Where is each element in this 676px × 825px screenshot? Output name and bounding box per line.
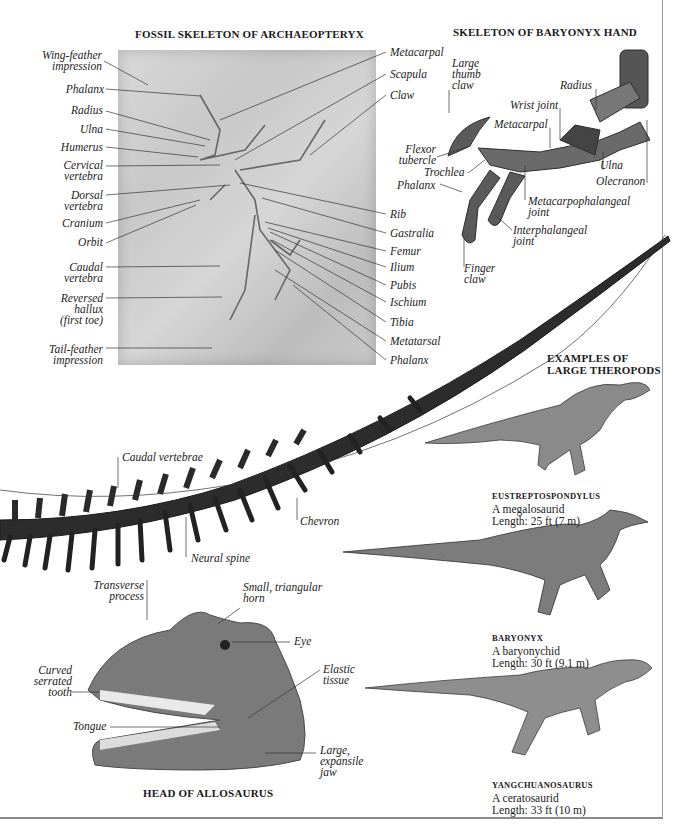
label-claw: Claw xyxy=(390,90,414,101)
label-ilium: Ilium xyxy=(390,262,414,273)
label-cranium: Cranium xyxy=(62,218,103,229)
label-ulna-hand: Ulna xyxy=(600,160,623,171)
label-phalanx-foot: Phalanx xyxy=(390,355,428,366)
label-curved-serrated-tooth: Curvedserratedtooth xyxy=(34,665,72,698)
label-cervical-vertebra: Cervicalvertebra xyxy=(63,160,103,182)
label-metatarsal: Metatarsal xyxy=(390,336,440,347)
label-ulna: Ulna xyxy=(80,124,103,135)
label-radius-hand: Radius xyxy=(560,80,592,91)
yangchuanosaurus-illustration xyxy=(365,660,652,755)
label-interphalangeal-joint: Interphalangealjoint xyxy=(513,225,587,247)
label-phalanx-hand: Phalanx xyxy=(397,180,435,191)
label-chevron: Chevron xyxy=(300,516,339,527)
label-finger-claw: Fingerclaw xyxy=(464,263,495,285)
theropod-name: YANGCHUANOSAURUS xyxy=(492,779,593,792)
theropod-name: EUSTREPTOSPONDYLUS xyxy=(492,490,600,503)
label-olecranon: Olecranon xyxy=(596,176,645,187)
label-large-thumb-claw: Largethumbclaw xyxy=(452,58,481,91)
label-wrist-joint: Wrist joint xyxy=(510,100,558,111)
label-metacarpal: Metacarpal xyxy=(390,47,444,58)
label-tongue: Tongue xyxy=(73,721,106,732)
baryonyx-hand-title: SKELETON OF BARYONYX HAND xyxy=(453,26,637,38)
label-humerus: Humerus xyxy=(61,142,103,153)
label-large-expansile-jaw: Large,expansilejaw xyxy=(320,745,363,778)
label-gastralia: Gastralia xyxy=(390,228,434,239)
label-eye: Eye xyxy=(294,636,311,647)
label-femur: Femur xyxy=(390,246,421,257)
eustreptospondylus-illustration xyxy=(425,382,650,475)
allosaurus-head-illustration xyxy=(88,612,305,770)
caption-eustreptospondylus: EUSTREPTOSPONDYLUS A megalosaurid Length… xyxy=(492,490,600,528)
label-caudal-vertebrae: Caudal vertebrae xyxy=(122,452,203,463)
label-neural-spine: Neural spine xyxy=(191,553,250,564)
label-metacarpal-hand: Metacarpal xyxy=(494,119,548,130)
label-dorsal-vertebra: Dorsalvertebra xyxy=(64,190,103,212)
label-small-triangular-horn: Small, triangularhorn xyxy=(243,582,322,604)
label-orbit: Orbit xyxy=(78,237,103,248)
theropods-title: EXAMPLES OFLARGE THEROPODS xyxy=(547,352,661,376)
label-radius: Radius xyxy=(71,105,103,116)
label-tibia: Tibia xyxy=(390,317,414,328)
label-rib: Rib xyxy=(390,209,406,220)
label-pubis: Pubis xyxy=(390,280,416,291)
label-wing-feather-impression: Wing-featherimpression xyxy=(42,50,102,72)
label-transverse-process: Transverseprocess xyxy=(94,580,144,602)
label-phalanx-wing: Phalanx xyxy=(66,84,104,95)
theropod-name: BARYONYX xyxy=(492,632,589,645)
label-metacarpophalangeal-joint: Metacarpophalangealjoint xyxy=(528,196,630,218)
label-tail-feather-impression: Tail-featherimpression xyxy=(49,344,103,366)
label-flexor-tubercle: Flexortubercle xyxy=(399,144,436,166)
label-ischium: Ischium xyxy=(390,297,426,308)
label-elastic-tissue: Elastictissue xyxy=(323,664,355,686)
label-reversed-hallux: Reversedhallux(first toe) xyxy=(60,293,103,326)
caption-baryonyx: BARYONYX A baryonychid Length: 30 ft (9.… xyxy=(492,632,589,670)
caption-yangchuanosaurus: YANGCHUANOSAURUS A ceratosaurid Length: … xyxy=(492,779,593,817)
label-trochlea: Trochlea xyxy=(424,167,464,178)
label-scapula: Scapula xyxy=(390,69,427,80)
label-caudal-vertebra: Caudalvertebra xyxy=(64,262,103,284)
allosaurus-head-title: HEAD OF ALLOSAURUS xyxy=(143,787,273,799)
archaeopteryx-skeleton xyxy=(200,95,325,320)
